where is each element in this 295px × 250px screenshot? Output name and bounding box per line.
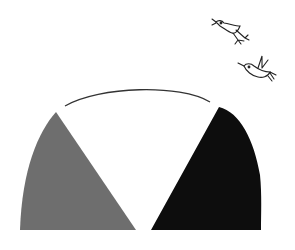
middle-sector-arc — [65, 90, 210, 106]
left-sector — [20, 112, 136, 230]
bird-lower-icon — [238, 56, 276, 81]
bird-upper-icon — [212, 19, 249, 44]
right-sector — [151, 107, 261, 230]
illustration-canvas — [0, 0, 295, 250]
